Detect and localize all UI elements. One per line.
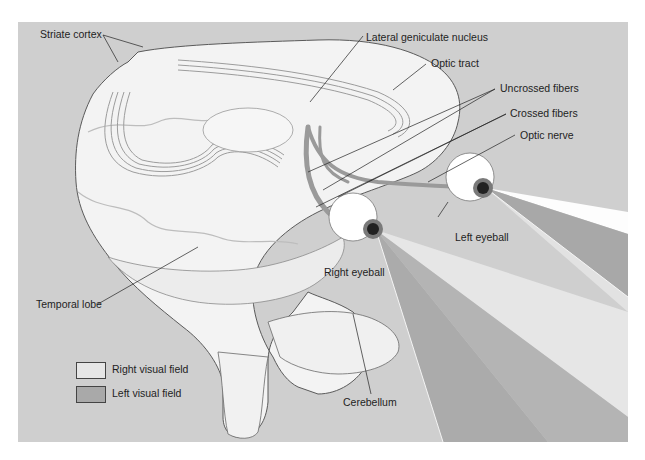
visual-field-beams [376,188,628,442]
label-cerebellum: Cerebellum [343,396,397,408]
left-eyeball [446,153,494,201]
legend-label: Right visual field [112,363,188,375]
label-striate-cortex: Striate cortex [40,28,102,40]
label-optic-nerve: Optic nerve [520,129,574,141]
label-right-eyeball: Right eyeball [324,266,385,278]
label-left-eyeball: Left eyeball [455,231,509,243]
label-temporal-lobe: Temporal lobe [36,298,102,310]
right-eyeball [329,193,383,241]
legend-label: Left visual field [112,387,181,399]
label-crossed-fibers: Crossed fibers [510,107,578,119]
label-uncrossed-fibers: Uncrossed fibers [500,82,579,94]
legend-swatch-dark [76,386,106,403]
legend-swatch-light [76,362,106,379]
label-lateral-geniculate-nucleus: Lateral geniculate nucleus [366,31,488,43]
diagram-panel: Striate cortex Lateral geniculate nucleu… [18,22,628,442]
label-optic-tract: Optic tract [431,57,479,69]
